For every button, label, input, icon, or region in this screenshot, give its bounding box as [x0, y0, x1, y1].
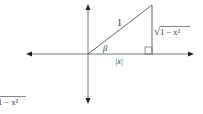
- x-axis-left-arrow: [26, 52, 32, 57]
- diagram: 1 β |x| √ 1 − x² 1 − x²: [0, 0, 203, 114]
- hypotenuse: [88, 5, 152, 54]
- base-label: |x|: [115, 57, 123, 66]
- y-axis-up-arrow: [86, 4, 91, 10]
- height-label: 1 − x²: [160, 27, 181, 37]
- cropped-label: 1 − x²: [0, 97, 19, 107]
- right-angle-marker: [145, 47, 152, 54]
- hypotenuse-label: 1: [117, 17, 122, 28]
- angle-label: β: [102, 43, 108, 53]
- y-axis-down-arrow: [86, 98, 91, 104]
- x-axis-right-arrow: [188, 52, 194, 57]
